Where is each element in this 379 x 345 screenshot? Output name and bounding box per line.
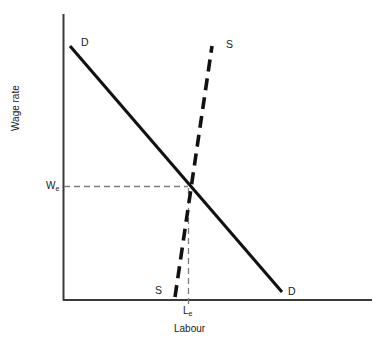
supply-demand-plot — [0, 0, 379, 345]
equilibrium-labour-base: L — [183, 305, 189, 316]
equilibrium-labour-subscript: e — [189, 310, 193, 317]
supply-curve-label-top: S — [226, 39, 233, 50]
equilibrium-wage-label: We — [46, 181, 59, 191]
equilibrium-wage-subscript: e — [55, 185, 59, 192]
supply-curve-label-bottom: S — [155, 285, 162, 296]
supply-curve — [175, 46, 212, 297]
demand-curve-label-top: D — [81, 37, 89, 48]
y-axis-title: Wage rate — [11, 41, 21, 131]
x-axis-title: Labour — [174, 324, 205, 334]
equilibrium-labour-label: Le — [183, 306, 192, 316]
labour-market-diagram: Wage rate Labour D S S D We Le — [0, 0, 379, 345]
demand-curve-label-bottom: D — [288, 286, 296, 297]
demand-curve — [70, 46, 282, 292]
